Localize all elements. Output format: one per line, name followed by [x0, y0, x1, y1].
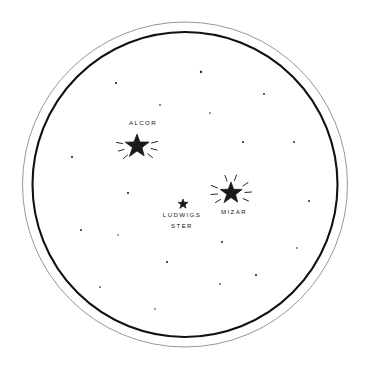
star-ray-mizar	[243, 183, 248, 187]
bright-star-ludwigs-ster	[178, 199, 188, 208]
star-ray-mizar	[225, 176, 227, 182]
bright-star-mizar	[220, 182, 242, 203]
inner-ring-circle	[33, 32, 338, 337]
field-star-dot	[71, 156, 73, 158]
field-star-dot	[127, 192, 129, 194]
star-field-svg	[0, 0, 370, 370]
field-star-dot	[117, 234, 118, 235]
field-star-dot	[219, 283, 221, 285]
field-star-dot	[242, 141, 244, 143]
star-ray-alcor	[152, 142, 158, 144]
bright-stars-group	[125, 134, 242, 208]
star-ray-mizar	[216, 200, 221, 203]
star-label-ludwigs-line2: STER	[163, 221, 201, 232]
star-ray-mizar	[243, 199, 249, 202]
star-label-mizar: MIZAR	[221, 207, 247, 217]
star-chart-canvas: ALCOR MIZAR LUDWIGS STER	[0, 0, 370, 370]
star-ray-alcor	[124, 155, 128, 159]
star-ray-mizar	[235, 175, 237, 181]
star-label-alcor: ALCOR	[129, 118, 157, 128]
star-ray-mizar	[212, 186, 218, 189]
bright-star-alcor	[125, 134, 149, 156]
star-label-ludwigs-ster: LUDWIGS STER	[163, 210, 201, 231]
star-ray-mizar	[211, 194, 218, 195]
star-ray-alcor	[151, 149, 157, 151]
star-ray-alcor	[117, 143, 123, 144]
field-star-dot	[115, 82, 117, 84]
eyepiece-rings	[23, 22, 348, 347]
field-star-dot	[293, 141, 295, 143]
field-star-dot	[80, 229, 82, 231]
field-star-dot	[154, 308, 156, 310]
star-ray-mizar	[245, 192, 252, 193]
field-star-dot	[308, 200, 310, 202]
field-star-dot	[200, 71, 202, 73]
field-stars-group	[71, 71, 310, 310]
field-star-dot	[255, 274, 257, 276]
field-star-dot	[296, 247, 298, 249]
field-star-dot	[166, 261, 168, 263]
field-star-dot	[221, 241, 223, 243]
star-ray-alcor	[148, 154, 153, 158]
field-star-dot	[159, 104, 161, 106]
star-label-ludwigs-line1: LUDWIGS	[163, 210, 201, 221]
outer-ring-circle	[23, 22, 348, 347]
field-star-dot	[263, 93, 265, 95]
star-ray-alcor	[119, 150, 125, 152]
field-star-dot	[209, 112, 211, 114]
field-star-dot	[99, 286, 101, 288]
